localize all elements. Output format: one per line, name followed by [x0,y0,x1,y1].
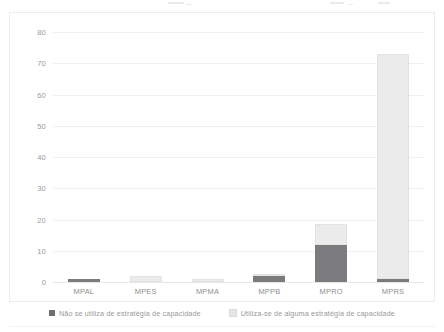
y-axis-tick-label: 50 [10,121,46,130]
scan-artifacts [0,0,444,12]
bar-group[interactable] [177,32,239,282]
bar-segment-no-strategy[interactable] [68,279,100,282]
bar-segment-some-strategy[interactable] [315,224,347,244]
chart-card: 01020304050607080 MPALMPESMPMAMPPBMPROMP… [9,12,435,302]
stacked-bar[interactable] [315,224,347,282]
bar-series-container [53,32,424,282]
bar-group[interactable] [362,32,424,282]
legend-item[interactable]: Não se utiliza de estratégia de capacida… [49,309,201,318]
x-axis-tick-label: MPRS [382,287,404,296]
y-axis-tick-label: 80 [10,28,46,37]
bar-group[interactable] [115,32,177,282]
scan-speck [348,4,353,5]
y-axis-tick-label: 70 [10,59,46,68]
legend-label: Utiliza-se de alguma estratégia de capac… [241,309,395,318]
stacked-bar[interactable] [377,54,409,282]
scan-speck [186,4,192,5]
bar-segment-no-strategy[interactable] [315,245,347,283]
bottom-divider [9,326,435,327]
x-axis-tick-label: MPES [135,287,157,296]
bar-segment-some-strategy[interactable] [377,54,409,279]
bar-segment-some-strategy[interactable] [192,279,224,282]
legend-item[interactable]: Utiliza-se de alguma estratégia de capac… [229,309,395,318]
scan-speck [168,2,184,4]
stacked-bar[interactable] [68,279,100,282]
y-axis-tick-label: 10 [10,246,46,255]
stacked-bar[interactable] [192,279,224,282]
gridline [53,282,424,283]
scan-speck [330,2,344,4]
y-axis-tick-label: 30 [10,184,46,193]
scan-speck [378,2,390,4]
chart-legend: Não se utiliza de estratégia de capacida… [9,305,435,321]
bar-group[interactable] [300,32,362,282]
plot-area: 01020304050607080 MPALMPESMPMAMPPBMPROMP… [10,13,436,303]
x-axis-tick-label: MPAL [74,287,95,296]
x-axis-tick-label: MPPB [258,287,280,296]
bar-segment-some-strategy[interactable] [253,274,285,276]
x-axis-tick-label: MPRO [320,287,343,296]
bar-segment-some-strategy[interactable] [130,276,162,282]
legend-label: Não se utiliza de estratégia de capacida… [59,309,201,318]
bar-group[interactable] [239,32,301,282]
legend-swatch-icon [49,310,55,316]
bar-segment-no-strategy[interactable] [377,279,409,282]
x-axis-tick-label: MPMA [196,287,219,296]
y-axis-tick-label: 0 [10,278,46,287]
stacked-bar[interactable] [253,274,285,282]
y-axis-tick-label: 60 [10,90,46,99]
bar-segment-no-strategy[interactable] [253,276,285,282]
y-axis-tick-label: 40 [10,153,46,162]
bar-group[interactable] [53,32,115,282]
stacked-bar[interactable] [130,276,162,282]
legend-swatch-icon [229,309,237,317]
y-axis-tick-label: 20 [10,215,46,224]
